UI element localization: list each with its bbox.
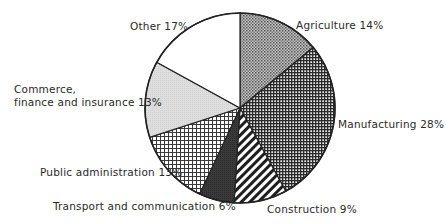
label-manufacturing: Manufacturing 28% (338, 118, 444, 130)
label-public-administration: Public administration 13% (40, 166, 182, 178)
label-agriculture: Agriculture 14% (296, 19, 383, 31)
label-commerce-line2: finance and insurance 13% (14, 96, 162, 108)
pie-chart: Agriculture 14% Manufacturing 28% Constr… (0, 0, 446, 224)
label-construction: Construction 9% (267, 203, 357, 215)
label-transport: Transport and communication 6% (52, 200, 236, 212)
label-commerce-line1: Commerce, (14, 83, 76, 95)
label-other: Other 17% (130, 20, 188, 32)
